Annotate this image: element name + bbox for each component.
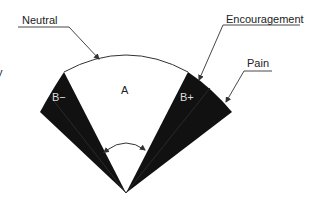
cropped-edge-text: y [0,66,3,78]
callout-neutral-label: Neutral [22,14,57,26]
right-wedge-inner-divide [126,88,210,193]
angle-arrow-arc [107,143,145,150]
fan-diagram: Neutral Encouragement Pain A B− B+ y [0,0,314,203]
region-b-minus-label: B− [52,91,66,103]
region-b-plus-label: B+ [180,91,194,103]
right-wedge-b-plus [126,72,232,193]
callout-pain-label: Pain [247,57,269,69]
callout-pain-leader [226,71,272,102]
region-a-label: A [121,84,129,96]
callout-encouragement-label: Encouragement [226,13,304,25]
left-wedge-inner-divide [50,96,126,193]
neutral-arc [64,55,188,72]
callout-encouragement-leader [199,25,300,80]
callout-neutral-leader [18,27,99,59]
